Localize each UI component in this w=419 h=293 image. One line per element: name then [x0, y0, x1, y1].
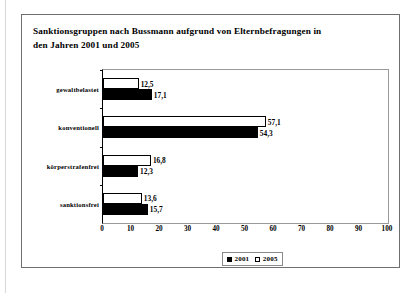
- bar-value-label: 12,3: [140, 167, 153, 176]
- bar-2005-k-rperstrafenfrei: 16,8: [103, 155, 151, 166]
- bar-2005-gewaltbelastet: 12,5: [103, 78, 139, 89]
- category-label-gewaltbelastet: gewaltbelastet: [56, 86, 99, 93]
- category-label-sanktionsfrei: sanktionsfrei: [60, 200, 99, 207]
- x-tick-label-70: 70: [298, 225, 305, 233]
- chart-title-line-1: Sanktionsgruppen nach Bussmann aufgrund …: [33, 24, 363, 38]
- bar-2001-k-rperstrafenfrei: 12,3: [103, 166, 138, 177]
- bar-value-label: 13,6: [144, 194, 157, 203]
- plot-area: gewaltbelastet12,517,1konventionell57,15…: [102, 69, 389, 224]
- x-axis-tick-labels: 0102030405060708090100: [102, 225, 387, 237]
- y-axis-tick: [100, 108, 103, 109]
- bar-value-label: 57,1: [268, 117, 281, 126]
- legend-label-2001: 2001: [235, 255, 250, 263]
- y-axis-tick: [100, 185, 103, 186]
- legend-swatch-2001: [227, 257, 232, 262]
- bar-value-label: 15,7: [150, 205, 163, 214]
- bar-2001-sanktionsfrei: 15,7: [103, 204, 148, 215]
- bar-2001-konventionell: 54,3: [103, 127, 258, 138]
- bar-2001-gewaltbelastet: 17,1: [103, 89, 152, 100]
- bar-2005-konventionell: 57,1: [103, 116, 266, 127]
- legend-label-2005: 2005: [263, 255, 278, 263]
- bar-value-label: 17,1: [154, 90, 167, 99]
- chart-title-line-2: den Jahren 2001 und 2005: [33, 38, 363, 52]
- x-tick-label-30: 30: [184, 225, 191, 233]
- x-tick-label-100: 100: [382, 225, 393, 233]
- page-edge-line: [5, 0, 6, 293]
- x-tick-label-40: 40: [212, 225, 219, 233]
- x-tick-label-0: 0: [100, 225, 104, 233]
- legend-entry-2001: 2001: [227, 255, 249, 263]
- bar-value-label: 16,8: [153, 156, 166, 165]
- y-axis-tick: [100, 147, 103, 148]
- legend-swatch-2005: [255, 257, 260, 262]
- bar-value-label: 54,3: [260, 128, 273, 137]
- x-tick-label-50: 50: [241, 225, 248, 233]
- x-tick-label-20: 20: [155, 225, 162, 233]
- bar-value-label: 12,5: [141, 79, 154, 88]
- legend-entry-2005: 2005: [255, 255, 277, 263]
- bar-2005-sanktionsfrei: 13,6: [103, 193, 142, 204]
- chart-title: Sanktionsgruppen nach Bussmann aufgrund …: [33, 24, 363, 52]
- category-label-k-rperstrafenfrei: körperstrafenfrei: [47, 162, 99, 169]
- x-tick-label-60: 60: [269, 225, 276, 233]
- x-tick-label-90: 90: [355, 225, 362, 233]
- y-axis-tick: [100, 70, 103, 71]
- category-label-konventionell: konventionell: [58, 124, 99, 131]
- chart-legend: 20012005: [222, 252, 283, 266]
- x-tick-label-10: 10: [127, 225, 134, 233]
- x-tick-label-80: 80: [326, 225, 333, 233]
